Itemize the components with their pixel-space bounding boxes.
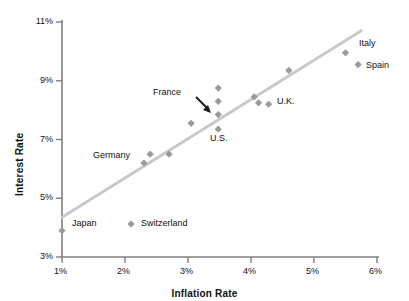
point-label-japan: Japan bbox=[72, 218, 97, 228]
point-label-italy: Italy bbox=[359, 38, 376, 48]
data-point-italy bbox=[342, 49, 349, 56]
y-axis-title: Interest Rate bbox=[14, 133, 25, 196]
x-tick-label: 2% bbox=[117, 266, 130, 276]
data-point-us bbox=[215, 126, 222, 133]
data-point-spain bbox=[355, 61, 362, 68]
data-point bbox=[255, 99, 262, 106]
switzerland-diamond-icon bbox=[127, 220, 134, 227]
y-axis-ticks bbox=[56, 22, 62, 257]
data-point bbox=[188, 120, 195, 127]
data-point bbox=[147, 151, 154, 158]
point-label-uk: U.K. bbox=[277, 96, 295, 106]
point-label-spain: Spain bbox=[366, 60, 389, 70]
y-tick-label: 11% bbox=[36, 16, 53, 26]
x-axis-ticks bbox=[62, 257, 377, 263]
data-point bbox=[215, 84, 222, 91]
y-tick-label: 3% bbox=[40, 251, 53, 261]
y-tick-label: 7% bbox=[40, 134, 53, 144]
point-label-france: France bbox=[153, 87, 181, 97]
data-point bbox=[215, 98, 222, 105]
switzerland-marker bbox=[127, 220, 134, 227]
data-point-uk bbox=[265, 101, 272, 108]
point-label-us: U.S. bbox=[210, 133, 228, 143]
x-tick-label: 6% bbox=[369, 266, 382, 276]
trend-line-segment bbox=[62, 31, 361, 218]
point-label-switzerland: Switzerland bbox=[141, 218, 188, 228]
x-tick-label: 3% bbox=[180, 266, 193, 276]
trend-line bbox=[62, 31, 361, 218]
point-label-germany: Germany bbox=[93, 150, 130, 160]
scatter-chart: Inflation Rate Interest Rate 3%5%7%9%11%… bbox=[0, 0, 409, 301]
x-tick-label: 1% bbox=[54, 266, 67, 276]
plot-area bbox=[0, 0, 409, 301]
y-tick-label: 9% bbox=[40, 75, 53, 85]
x-tick-label: 5% bbox=[306, 266, 319, 276]
x-axis-title: Inflation Rate bbox=[0, 288, 409, 299]
data-point-japan bbox=[58, 227, 65, 234]
x-tick-label: 4% bbox=[243, 266, 256, 276]
y-tick-label: 5% bbox=[40, 192, 53, 202]
france-arrow-icon bbox=[196, 97, 211, 113]
